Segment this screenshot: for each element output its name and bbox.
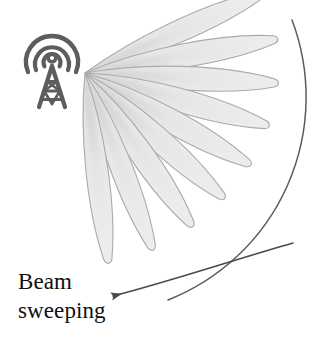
caption-line-sweeping: sweeping <box>18 299 106 322</box>
signal-source-dot <box>48 54 56 62</box>
beam-lobe-group <box>74 0 280 265</box>
sweep-arrow-icon <box>113 243 293 296</box>
tower-brace-x3 <box>44 91 52 104</box>
tower-brace-x4 <box>52 91 60 104</box>
antenna-tower-icon <box>26 36 78 107</box>
figure-canvas <box>0 0 310 346</box>
caption-line-beam: Beam <box>18 270 72 293</box>
beam-sweeping-figure: Beam sweeping <box>0 0 310 346</box>
